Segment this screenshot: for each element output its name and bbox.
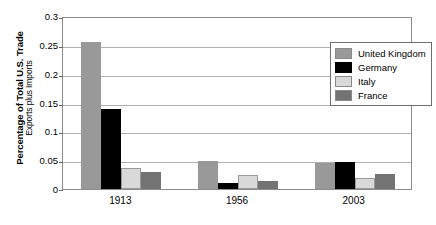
legend-item: United Kingdom — [335, 46, 426, 60]
legend-swatch-icon — [335, 48, 352, 59]
bar — [101, 109, 121, 189]
y-axis-tick-label: 0.05 — [26, 156, 58, 166]
y-axis-tick-label: 0.15 — [26, 99, 58, 109]
bar — [355, 178, 375, 189]
bar — [335, 162, 355, 189]
legend-label: Italy — [358, 76, 375, 87]
legend-label: France — [358, 90, 388, 101]
y-axis-tick-label: 0.25 — [26, 41, 58, 51]
y-axis-tick-label: 0.2 — [26, 70, 58, 80]
legend-label: United Kingdom — [358, 48, 426, 59]
legend-swatch-icon — [335, 90, 352, 101]
bar — [238, 175, 258, 189]
bar — [121, 168, 141, 189]
legend-swatch-icon — [335, 62, 352, 73]
bar — [315, 163, 335, 189]
y-axis-tick-labels: 00.050.10.150.20.250.3 — [26, 0, 58, 225]
bar — [198, 161, 218, 189]
plot-area: United KingdomGermanyItalyFrance — [62, 17, 412, 190]
x-axis-tick-label: 1913 — [109, 195, 131, 206]
y-axis-tick-label: 0.3 — [26, 12, 58, 22]
y-axis-tick-label: 0.1 — [26, 127, 58, 137]
legend-swatch-icon — [335, 76, 352, 87]
legend: United KingdomGermanyItalyFrance — [330, 42, 432, 106]
legend-label: Germany — [358, 62, 397, 73]
y-axis-tick-mark — [59, 190, 63, 191]
x-axis-tick-label: 1956 — [226, 195, 248, 206]
bar — [218, 183, 238, 189]
bar-chart: Percentage of Total U.S. Trade Exports p… — [0, 0, 436, 225]
bar — [81, 42, 101, 189]
bar — [141, 172, 161, 189]
legend-item: France — [335, 88, 426, 102]
bar — [258, 181, 278, 189]
legend-item: Germany — [335, 60, 426, 74]
x-axis-tick-label: 2003 — [343, 195, 365, 206]
legend-item: Italy — [335, 74, 426, 88]
x-axis-tick-labels: 191319562003 — [62, 192, 412, 212]
y-axis-tick-label: 0 — [26, 185, 58, 195]
bar — [375, 174, 395, 189]
